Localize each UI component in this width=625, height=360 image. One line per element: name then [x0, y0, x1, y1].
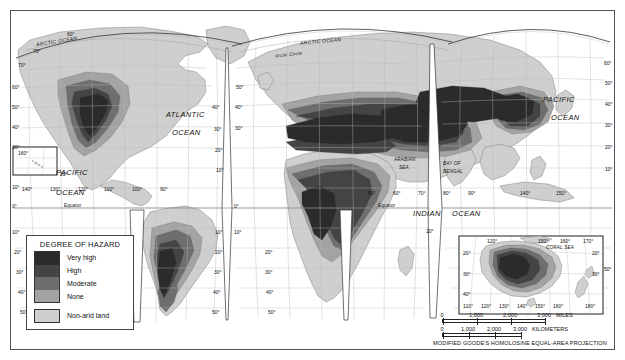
deg-left-lat-10s: 10°	[12, 229, 20, 235]
legend-title: DEGREE OF HAZARD	[27, 240, 133, 249]
label-coral-sea: CORAL SEA	[546, 245, 574, 250]
projection-note: MODIFIED GOODE'S HOMOLOSINE EQUAL-AREA P…	[430, 340, 610, 346]
scale-km-tick-0: 0	[440, 326, 443, 332]
deg-left-lat-50: 50°	[12, 104, 20, 110]
label-equator-right: Equator	[378, 203, 396, 208]
deg-right-lat-50: 50°	[605, 80, 613, 86]
deg-north-70: 70°	[33, 48, 41, 54]
aus-deg-top-150: 150°	[538, 238, 548, 244]
deg-left-lat-70: 70°	[18, 62, 26, 68]
aus-deg-lat-40: 40°	[463, 291, 471, 297]
aus-deg-lat-30: 30°	[463, 271, 471, 277]
label-indian-ocean-line2: OCEAN	[452, 209, 481, 218]
deg-ctr-lat-0: 0°	[234, 203, 239, 209]
deg-atl-lat-10: 10°	[216, 167, 224, 173]
legend-swatch-high	[35, 265, 59, 278]
label-arabian-sea-line1: ARABIAN	[394, 157, 416, 162]
aus-deg-bot-120: 120°	[481, 303, 491, 309]
deg-left-lat-10: 10°	[12, 184, 20, 190]
deg-right-lat-20: 20°	[605, 144, 613, 150]
deg-ind-lon-80: 80°	[443, 190, 451, 196]
deg-ind-lon-90: 90°	[468, 190, 476, 196]
deg-left-lat-20s: 20°	[14, 249, 22, 255]
deg-pac-lon-100: 100°	[132, 186, 142, 192]
scale-miles-tick-2: 2,000	[503, 312, 517, 318]
label-atlantic-ocean-line2: OCEAN	[172, 128, 201, 137]
aus-deg-top-160: 160°	[560, 238, 570, 244]
label-bay-of-bengal-line2: BENGAL	[443, 169, 463, 174]
deg-ctr-lat-40: 40°	[235, 104, 243, 110]
deg-atl-lat-30: 30°	[214, 126, 222, 132]
legend-label-moderate: Moderate	[67, 277, 133, 290]
label-indian-ocean-line1: INDIAN	[413, 209, 441, 218]
legend-label-high: High	[67, 264, 133, 277]
deg-left-lat-40: 40°	[12, 124, 20, 130]
legend-swatch-none	[35, 290, 59, 303]
scale-km-tick-3: 3,000	[513, 326, 527, 332]
deg-east-lon-150: 150°	[556, 190, 566, 196]
legend-label-list: Very high High Moderate None	[67, 251, 133, 303]
deg-right-lat-10: 10°	[605, 166, 613, 172]
scale-miles-unit: MILES	[556, 312, 573, 318]
aus-deg-bot-140: 140°	[517, 303, 527, 309]
scale-bar-miles	[442, 319, 546, 323]
deg-right-lat-30: 30°	[605, 122, 613, 128]
label-pacific-ocean-right-line2: OCEAN	[551, 113, 580, 122]
deg-atl-lat-40: 40°	[212, 104, 220, 110]
map-page: ARCTIC OCEAN ARCTIC OCEAN Arctic Circle …	[0, 0, 625, 360]
aus-deg-rlat-20: 20°	[592, 250, 600, 256]
deg-pac-lon-90: 90°	[160, 186, 168, 192]
deg-pac-lon-120: 120°	[78, 186, 88, 192]
deg-ctr-lat-10s: 10°	[234, 229, 242, 235]
deg-ind-lon-60: 60°	[393, 190, 401, 196]
legend-label-non-arid: Non-arid land	[67, 309, 109, 323]
scale-block: 0 1,000 2,000 3,000 MILES 0 1,000 2,000 …	[430, 316, 610, 350]
deg-left-lat-0: 0°	[12, 203, 17, 209]
deg-ctr-lat-50s: 50°	[268, 309, 276, 315]
legend-box: DEGREE OF HAZARD Very high High Moderate…	[26, 235, 134, 330]
deg-pac-lon-110: 110°	[104, 186, 114, 192]
label-bay-of-bengal-line1: BAY OF	[443, 161, 461, 166]
deg-right-lat-60: 60°	[604, 60, 612, 66]
deg-right-lat-50s: 50°	[604, 266, 612, 272]
label-pacific-ocean-right-line1: PACIFIC	[543, 95, 575, 104]
deg-hawaii-160: 160°	[18, 150, 28, 156]
aus-deg-rlat-30: 30°	[592, 271, 600, 277]
label-arabian-sea-line2: SEA	[399, 165, 409, 170]
aus-deg-bot-180: 180°	[585, 303, 595, 309]
legend-label-very-high: Very high	[67, 251, 133, 264]
legend-swatch-stack	[34, 251, 60, 303]
scale-miles-tick-0: 0	[440, 312, 443, 318]
deg-atl-lat-10s: 10°	[215, 229, 223, 235]
deg-ind-lon-70: 70°	[418, 190, 426, 196]
legend-swatch-non-arid	[34, 309, 60, 323]
deg-ind-lat-10s: 10°	[426, 228, 434, 234]
deg-ind-lon-50: 50°	[368, 190, 376, 196]
aus-deg-bot-160: 160°	[553, 303, 563, 309]
deg-atl-lat-20s: 20°	[215, 249, 223, 255]
aus-deg-top-170: 170°	[583, 238, 593, 244]
deg-atl-lat-40s: 40°	[213, 289, 221, 295]
deg-pac-lon-130: 130°	[50, 186, 60, 192]
scale-km-tick-1: 1,000	[461, 326, 475, 332]
legend-label-none: None	[67, 290, 133, 303]
deg-north-60: 60°	[67, 31, 75, 37]
scale-km-tick-2: 2,000	[487, 326, 501, 332]
deg-ctr-lat-30: 30°	[235, 125, 243, 131]
legend-swatch-moderate	[35, 277, 59, 290]
legend-swatch-very-high	[35, 252, 59, 265]
deg-ctr-lat-20s: 20°	[265, 249, 273, 255]
deg-left-lat-40s: 40°	[18, 289, 26, 295]
deg-pac-lon-140: 140°	[22, 186, 32, 192]
deg-ctr-lat-50: 50°	[236, 84, 244, 90]
deg-atl-lat-30s: 30°	[214, 269, 222, 275]
scale-miles-tick-1: 1,000	[469, 312, 483, 318]
aus-deg-bot-130: 130°	[499, 303, 509, 309]
deg-ctr-lat-40s: 40°	[266, 289, 274, 295]
deg-left-lat-30s: 30°	[16, 269, 24, 275]
scale-bar-kilometers	[442, 333, 522, 337]
scale-km-unit: KILOMETERS	[532, 326, 568, 332]
deg-atl-lat-50s: 50°	[212, 309, 220, 315]
scale-miles-tick-3: 3,000	[537, 312, 551, 318]
deg-east-lon-140: 140°	[520, 190, 530, 196]
